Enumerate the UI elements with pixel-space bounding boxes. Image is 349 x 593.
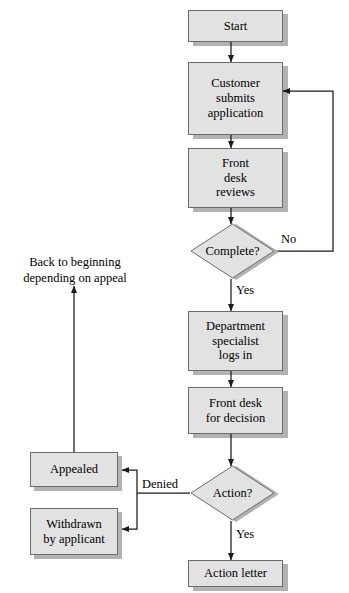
node-start[interactable]: Start [188, 10, 283, 42]
edge-label-action-yes: Yes [236, 527, 254, 542]
edge-denied-to-appealed [122, 470, 137, 493]
node-appealed[interactable]: Appealed [30, 452, 118, 487]
note-back-to-beginning: Back to beginning depending on appeal [0, 255, 150, 286]
edge-complete-no-loopback [275, 91, 333, 251]
node-letter-label: Action letter [204, 566, 267, 581]
node-action-decision[interactable]: Action? [190, 465, 275, 521]
node-frontdesk-line2: desk [224, 171, 247, 186]
node-department-specialist-logs-in[interactable]: Department specialist logs in [188, 311, 283, 371]
node-frontdesk-line3: reviews [216, 185, 255, 200]
node-customer-line1: Customer [211, 76, 260, 91]
node-specialist-line2: specialist [212, 334, 259, 349]
edge-label-action-denied: Denied [142, 477, 178, 492]
note-back-to-beginning-line1: Back to beginning [0, 255, 150, 271]
edge-label-complete-no: No [281, 232, 296, 247]
flowchart-connectors [0, 0, 349, 593]
node-action-letter[interactable]: Action letter [188, 560, 283, 587]
node-customer-line2: submits [216, 91, 255, 106]
node-start-label: Start [224, 19, 248, 34]
node-action-label: Action? [190, 465, 275, 521]
node-customer-line3: application [208, 106, 264, 121]
node-specialist-line3: logs in [219, 348, 253, 363]
note-back-to-beginning-line2: depending on appeal [0, 271, 150, 287]
node-complete-label: Complete? [190, 223, 275, 279]
node-appealed-label: Appealed [50, 462, 98, 477]
node-specialist-line1: Department [206, 319, 265, 334]
flowchart-canvas: Start Customer submits application Front… [0, 0, 349, 593]
node-withdrawn-line1: Withdrawn [46, 517, 102, 532]
node-customer-submits-application[interactable]: Customer submits application [188, 62, 283, 135]
edge-label-complete-yes: Yes [236, 283, 254, 298]
node-front-desk-reviews[interactable]: Front desk reviews [188, 148, 283, 208]
node-front-desk-for-decision[interactable]: Front desk for decision [188, 387, 283, 434]
node-decision-line1: Front desk [209, 396, 262, 411]
node-withdrawn-by-applicant[interactable]: Withdrawn by applicant [30, 508, 118, 555]
edge-denied-to-withdrawn [122, 493, 137, 529]
node-complete-decision[interactable]: Complete? [190, 223, 275, 279]
node-withdrawn-line2: by applicant [43, 532, 104, 547]
node-frontdesk-line1: Front [222, 156, 249, 171]
node-decision-line2: for decision [206, 411, 265, 426]
